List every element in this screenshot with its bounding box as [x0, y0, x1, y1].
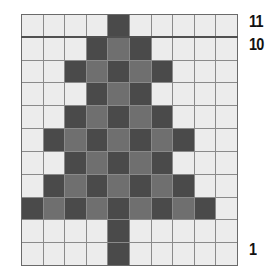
- grid-cell: [130, 198, 151, 220]
- grid-cell: [22, 129, 43, 151]
- grid-cell: [44, 129, 65, 151]
- grid-cell: [44, 15, 65, 37]
- grid-cell: [173, 198, 194, 220]
- grid-cell: [130, 220, 151, 242]
- grid-cell: [195, 38, 216, 60]
- grid-cell: [152, 83, 173, 105]
- grid-cell: [87, 198, 108, 220]
- grid-cell: [65, 243, 86, 265]
- grid-cell: [87, 129, 108, 151]
- grid-cell: [108, 220, 129, 242]
- grid-cell: [44, 61, 65, 83]
- knitting-chart-grid: [21, 14, 238, 266]
- row-label-1: 1: [249, 240, 256, 260]
- grid-cell: [152, 38, 173, 60]
- grid-cell: [173, 152, 194, 174]
- grid-cell: [216, 220, 237, 242]
- grid-cell: [87, 220, 108, 242]
- grid-cell: [130, 38, 151, 60]
- grid-cell: [152, 175, 173, 197]
- grid-cell: [65, 220, 86, 242]
- grid-cell: [65, 106, 86, 128]
- row-label-11: 11: [249, 12, 263, 32]
- grid-cell: [44, 38, 65, 60]
- grid-cell: [108, 175, 129, 197]
- grid-cell: [130, 243, 151, 265]
- grid-cell: [195, 15, 216, 37]
- grid-cell: [22, 15, 43, 37]
- grid-cell: [216, 61, 237, 83]
- grid-cell: [87, 38, 108, 60]
- grid-cell: [216, 106, 237, 128]
- grid-cell: [44, 83, 65, 105]
- grid-cell: [65, 83, 86, 105]
- grid-cell: [87, 175, 108, 197]
- grid-cell: [87, 83, 108, 105]
- grid-cell: [152, 152, 173, 174]
- grid-cell: [130, 15, 151, 37]
- grid-cell: [130, 152, 151, 174]
- grid-cell: [44, 220, 65, 242]
- grid-cell: [173, 106, 194, 128]
- row-label-10: 10: [249, 35, 263, 55]
- grid-cell: [108, 243, 129, 265]
- grid-cell: [130, 175, 151, 197]
- grid-cell: [87, 61, 108, 83]
- grid-cell: [173, 15, 194, 37]
- grid-cell: [152, 129, 173, 151]
- grid-cell: [130, 106, 151, 128]
- grid-cell: [87, 15, 108, 37]
- grid-cell: [173, 175, 194, 197]
- grid-cell: [216, 198, 237, 220]
- grid-cell: [130, 129, 151, 151]
- grid-cell: [87, 243, 108, 265]
- grid-cell: [44, 175, 65, 197]
- grid-cell: [173, 83, 194, 105]
- grid-cell: [195, 106, 216, 128]
- grid-cell: [173, 38, 194, 60]
- grid-cell: [195, 129, 216, 151]
- grid-cell: [22, 220, 43, 242]
- grid-cell: [87, 106, 108, 128]
- grid-cell: [108, 38, 129, 60]
- grid-cell: [152, 243, 173, 265]
- grid-cell: [22, 38, 43, 60]
- grid-cell: [87, 152, 108, 174]
- grid-cell: [152, 15, 173, 37]
- grid-cell: [22, 152, 43, 174]
- grid-cell: [195, 243, 216, 265]
- grid-cell: [44, 198, 65, 220]
- grid-cell: [22, 198, 43, 220]
- grid-cell: [130, 61, 151, 83]
- grid-cell: [173, 61, 194, 83]
- grid-cell: [108, 15, 129, 37]
- grid-cell: [216, 83, 237, 105]
- grid-cell: [22, 243, 43, 265]
- grid-cell: [195, 83, 216, 105]
- grid-cell: [173, 243, 194, 265]
- grid-cell: [108, 198, 129, 220]
- grid-cell: [65, 15, 86, 37]
- grid-cell: [65, 61, 86, 83]
- grid-cell: [65, 175, 86, 197]
- grid-cell: [65, 198, 86, 220]
- grid-cell: [108, 61, 129, 83]
- grid-cell: [152, 220, 173, 242]
- grid-cell: [216, 243, 237, 265]
- grid-cell: [65, 129, 86, 151]
- grid-cell: [195, 61, 216, 83]
- grid-cell: [216, 175, 237, 197]
- grid-cell: [152, 106, 173, 128]
- grid-cell: [152, 61, 173, 83]
- grid-cell: [152, 198, 173, 220]
- grid-cell: [216, 152, 237, 174]
- grid-cell: [173, 220, 194, 242]
- grid-cell: [195, 198, 216, 220]
- grid-cell: [195, 220, 216, 242]
- grid-cell: [216, 38, 237, 60]
- grid-cell: [130, 83, 151, 105]
- grid-cell: [22, 83, 43, 105]
- grid-cell: [44, 243, 65, 265]
- grid-cell: [173, 129, 194, 151]
- grid-cell: [195, 175, 216, 197]
